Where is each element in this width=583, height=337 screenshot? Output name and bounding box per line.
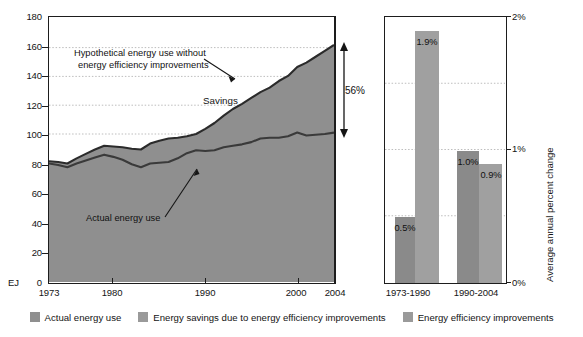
legend-item-energy-savings[interactable]: Energy savings due to energy efficiency …: [138, 312, 385, 323]
legend-item-energy-efficiency[interactable]: Energy efficiency improvements: [403, 312, 554, 323]
bar-label-efficiency-1990-2004: 0.9%: [477, 170, 505, 180]
left-ytick-80: 80: [10, 159, 42, 170]
right-plot-area: 0.5% 1.9% 1.0% 0.9%: [384, 16, 507, 284]
left-ytick-180: 180: [10, 11, 42, 22]
left-ytick-140: 140: [10, 70, 42, 81]
actual-energy-caption: Actual energy use: [86, 213, 160, 225]
legend-item-actual-energy-use[interactable]: Actual energy use: [30, 312, 122, 323]
right-chart-panel: 0.5% 1.9% 1.0% 0.9% 2% 1% 0% 1973-1990 1…: [372, 0, 583, 300]
savings-caption: Savings: [203, 95, 238, 106]
left-xtick-1973: 1973: [30, 287, 68, 298]
left-xtick-1980: 1980: [93, 287, 131, 298]
hypothetical-caption-line1: Hypothetical energy use without: [74, 48, 206, 60]
left-xtick-1990: 1990: [186, 287, 224, 298]
gap-percent-label: 56%: [345, 85, 365, 97]
right-tickmark-1pct: [506, 149, 511, 150]
bar-label-actual-1990-2004: 1.0%: [454, 157, 482, 167]
right-ytick-2pct: 2%: [512, 11, 526, 22]
left-ytick-20: 20: [10, 247, 42, 258]
left-ytick-160: 160: [10, 41, 42, 52]
right-xtick-1990-2004: 1990-2004: [436, 287, 516, 298]
legend-label-efficiency: Energy efficiency improvements: [418, 312, 554, 323]
left-xtick-2000: 2000: [277, 287, 315, 298]
bar-label-efficiency-1973-1990: 1.9%: [413, 37, 441, 47]
right-ytick-0pct: 0%: [512, 277, 526, 288]
left-ytick-120: 120: [10, 100, 42, 111]
left-xtickmark-2000: [298, 278, 299, 283]
legend-swatch-icon-efficiency: [403, 312, 413, 322]
right-tickmark-2pct: [506, 16, 511, 17]
right-ytick-1pct: 1%: [512, 143, 526, 154]
bar-label-actual-1973-1990: 0.5%: [390, 223, 420, 233]
legend-label-actual: Actual energy use: [45, 312, 122, 323]
right-axis-title: Average annual percent change: [544, 147, 555, 282]
right-tickmark-0pct: [506, 282, 511, 283]
bar-efficiency-1990-2004[interactable]: [479, 164, 502, 283]
legend-label-savings: Energy savings due to energy efficiency …: [153, 312, 385, 323]
legend-swatch-icon-actual: [30, 312, 40, 322]
legend: Actual energy use Energy savings due to …: [0, 306, 583, 328]
hypothetical-caption-line2: energy efficiency improvements: [78, 60, 209, 72]
bar-efficiency-1973-1990[interactable]: [415, 31, 439, 283]
figure-root: 180 160 140 120 100 80 60 40 20 0 EJ: [0, 0, 583, 337]
left-ytick-100: 100: [10, 129, 42, 140]
left-xtickmark-1980: [112, 278, 113, 283]
left-ytick-40: 40: [10, 218, 42, 229]
left-axis-unit-label: EJ: [8, 277, 19, 288]
left-ytick-60: 60: [10, 188, 42, 199]
left-xtickmark-1990: [205, 278, 206, 283]
left-xtick-2004: 2004: [316, 287, 354, 298]
left-chart-panel: 180 160 140 120 100 80 60 40 20 0 EJ: [0, 0, 370, 300]
bar-actual-1990-2004[interactable]: [457, 151, 479, 284]
legend-swatch-icon-savings: [138, 312, 148, 322]
